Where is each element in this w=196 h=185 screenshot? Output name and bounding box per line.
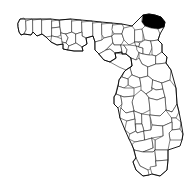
florida-county-map — [0, 0, 196, 185]
county-st-lucie — [172, 118, 181, 130]
county-jackson — [60, 19, 72, 34]
county-madison — [102, 23, 113, 38]
county-washington — [52, 27, 61, 37]
county-columbia — [122, 26, 135, 45]
county-walton — [42, 19, 52, 37]
county-suwannee — [112, 34, 124, 45]
county-leon — [82, 21, 93, 38]
county-holmes — [52, 20, 60, 28]
county-gadsden — [72, 20, 82, 34]
map-figure: Map of Florida highlighting Nassau Count… — [0, 0, 196, 185]
county-baker — [135, 29, 143, 42]
county-broward — [155, 150, 168, 161]
county-hamilton — [112, 24, 124, 34]
